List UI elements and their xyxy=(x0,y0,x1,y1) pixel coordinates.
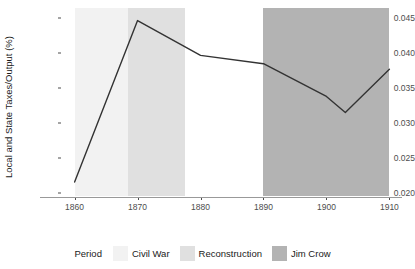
legend-title: Period xyxy=(74,248,101,259)
chart-container: Local and State Taxes/Output (%) 0.0200.… xyxy=(0,0,415,269)
y-axis-tick-mark xyxy=(58,18,61,19)
plot-area xyxy=(62,8,402,196)
x-axis-tick-label: 1880 xyxy=(181,202,221,212)
y-axis-tick-mark xyxy=(58,53,61,54)
legend-swatch xyxy=(272,246,287,261)
data-line-series xyxy=(75,21,390,183)
y-axis-title: Local and State Taxes/Output (%) xyxy=(2,2,16,212)
legend-label: Jim Crow xyxy=(291,248,331,259)
data-line-layer xyxy=(62,8,402,196)
y-axis-tick-mark xyxy=(58,157,61,158)
y-axis-tick-mark xyxy=(58,122,61,123)
x-axis-tick-label: 1900 xyxy=(306,202,346,212)
y-axis-tick-mark xyxy=(58,192,61,193)
legend-swatch xyxy=(180,246,195,261)
legend-item[interactable]: Jim Crow xyxy=(272,246,331,261)
x-axis-tick-label: 1910 xyxy=(369,202,409,212)
legend-item[interactable]: Reconstruction xyxy=(180,246,262,261)
legend-swatch xyxy=(113,246,128,261)
x-axis-line xyxy=(40,197,402,198)
chart-legend: Period Civil WarReconstructionJim Crow xyxy=(0,243,415,263)
x-axis-tick-label: 1890 xyxy=(243,202,283,212)
legend-label: Reconstruction xyxy=(199,248,262,259)
y-axis-tick-mark xyxy=(58,88,61,89)
legend-label: Civil War xyxy=(132,248,170,259)
legend-item-group: Civil WarReconstructionJim Crow xyxy=(113,246,341,261)
x-axis-tick-label: 1860 xyxy=(55,202,95,212)
legend-item[interactable]: Civil War xyxy=(113,246,170,261)
x-axis-tick-label: 1870 xyxy=(118,202,158,212)
